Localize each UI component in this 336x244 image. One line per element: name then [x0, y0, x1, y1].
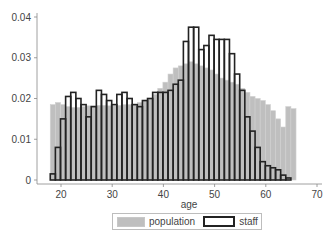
staff-swatch: [203, 216, 235, 227]
population-bar: [291, 109, 296, 180]
population-bar: [286, 107, 291, 180]
legend: population staff: [112, 213, 262, 230]
x-axis-title: age: [181, 199, 198, 210]
x-tick-label: 30: [107, 189, 119, 200]
y-tick-label: 0: [25, 175, 31, 186]
x-tick-label: 50: [209, 189, 221, 200]
population-swatch: [117, 217, 145, 227]
x-tick-label: 40: [158, 189, 170, 200]
legend-staff-label: staff: [239, 216, 258, 227]
x-tick-label: 70: [311, 189, 323, 200]
y-tick-label: 0.04: [12, 12, 32, 23]
y-tick-label: 0.01: [12, 134, 32, 145]
y-tick-label: 0.03: [12, 52, 32, 63]
legend-population-label: population: [149, 216, 195, 227]
y-tick-label: 0.02: [12, 93, 32, 104]
histogram-chart: 00.010.020.030.04203040506070 age: [0, 0, 336, 212]
x-tick-label: 60: [260, 189, 272, 200]
x-tick-label: 20: [55, 189, 67, 200]
